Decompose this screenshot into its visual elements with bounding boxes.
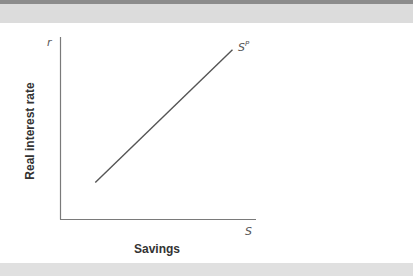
x-axis-label: Savings	[134, 242, 180, 256]
bottom-band	[0, 263, 413, 276]
y-axis-symbol: r	[47, 36, 52, 49]
x-axis-symbol: S	[245, 225, 252, 238]
curve-label: SP	[238, 40, 249, 54]
chart-canvas	[0, 0, 413, 276]
savings-curve	[95, 50, 232, 183]
curve-label-base: S	[238, 41, 245, 54]
y-axis-label: Real interest rate	[23, 82, 37, 179]
curve-label-sup: P	[245, 40, 249, 48]
